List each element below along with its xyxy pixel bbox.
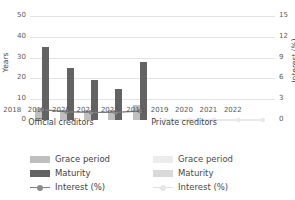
legend-swatch-maturity-icon: [30, 170, 50, 177]
y-tick-right: 6: [279, 74, 295, 81]
legend-item-grace-official: Grace period: [30, 152, 152, 166]
legend-item-grace-private: Grace period: [153, 152, 275, 166]
legend-label-interest: Interest (%): [55, 182, 105, 192]
y-tick-left: 30: [6, 54, 26, 61]
panel-caption-official: Official creditors: [0, 118, 122, 127]
y-tick-right: 15: [279, 12, 295, 19]
plot-area: [30, 16, 275, 120]
legend-swatch-interest-line-icon: [30, 184, 50, 191]
x-tick-label: 2019: [24, 106, 48, 115]
x-tick-label: 2020: [49, 106, 73, 115]
y-tick-left: 50: [6, 12, 26, 19]
x-tick-label: 2021: [196, 106, 220, 115]
x-tick-label: 2021: [73, 106, 97, 115]
panel-caption-private: Private creditors: [123, 118, 245, 127]
x-axis-ticks-official: 20182019202020212022: [0, 106, 122, 118]
interest-line-private: [153, 16, 275, 120]
interest-line-official: [30, 16, 152, 120]
legend-swatch-interest-line-icon: [153, 184, 173, 191]
legend-label-grace: Grace period: [178, 154, 233, 164]
legend-swatch-grace-icon: [153, 156, 173, 163]
legend-label-grace: Grace period: [55, 154, 110, 164]
panel-official-creditors: [30, 16, 152, 120]
y-tick-right: 12: [279, 33, 295, 40]
legend-item-interest-private: Interest (%): [153, 180, 275, 194]
chart-container: Years Interest (%) 50403020100 15129630 …: [0, 0, 295, 200]
x-axis-ticks-private: 20182019202020212022: [123, 106, 245, 118]
legend-label-maturity: Maturity: [178, 168, 213, 178]
y-tick-right: 0: [279, 116, 295, 123]
x-tick-label: 2022: [221, 106, 245, 115]
panel-private-creditors: [153, 16, 275, 120]
x-tick-label: 2018: [123, 106, 147, 115]
legend-item-interest-official: Interest (%): [30, 180, 152, 194]
x-tick-label: 2020: [172, 106, 196, 115]
legend-label-maturity: Maturity: [55, 168, 90, 178]
x-tick-label: 2022: [98, 106, 122, 115]
x-tick-label: 2018: [0, 106, 24, 115]
interest-marker: [261, 118, 266, 123]
y-tick-right: 9: [279, 54, 295, 61]
y-tick-left: 10: [6, 95, 26, 102]
y-tick-left: 40: [6, 33, 26, 40]
y-tick-left: 20: [6, 74, 26, 81]
legend-swatch-maturity-icon: [153, 170, 173, 177]
legend-item-maturity-official: Maturity: [30, 166, 152, 180]
x-tick-label: 2019: [147, 106, 171, 115]
legend-label-interest: Interest (%): [178, 182, 228, 192]
y-tick-right: 3: [279, 95, 295, 102]
legend-official: Grace period Maturity Interest (%): [30, 152, 152, 194]
legend-private: Grace period Maturity Interest (%): [153, 152, 275, 194]
legend-swatch-grace-icon: [30, 156, 50, 163]
legend-item-maturity-private: Maturity: [153, 166, 275, 180]
